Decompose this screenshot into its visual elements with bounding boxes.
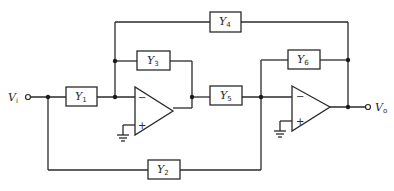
opamp-a1-minus: −: [138, 92, 146, 103]
output-terminal: Vo: [366, 101, 388, 115]
junction-a1-inverting: [113, 95, 117, 99]
admittance-y1: Y1: [66, 87, 97, 106]
admittance-y6: Y6: [288, 50, 320, 69]
input-label: Vi: [8, 91, 18, 105]
junction-y6-right: [346, 58, 350, 62]
opamp-a2: − +: [274, 86, 330, 137]
ground-icon: [274, 131, 286, 137]
admittance-y2: Y2: [148, 160, 180, 179]
ground-icon: [117, 135, 129, 141]
opamp-a1-plus: +: [138, 120, 146, 131]
junction-y3-left: [113, 59, 117, 63]
input-terminal: Vi: [8, 91, 31, 105]
circuit-diagram: Vi Vo Y1 Y2 Y3 Y4 Y5 Y6 − +: [0, 0, 394, 191]
admittance-y5: Y5: [210, 86, 242, 105]
junction-a2-inverting: [259, 95, 263, 99]
output-label: Vo: [375, 101, 387, 115]
junction-output: [346, 105, 350, 109]
admittance-y4: Y4: [210, 12, 241, 32]
junction-a1-output: [190, 95, 194, 99]
opamp-a1: − +: [117, 87, 173, 141]
junction-input: [46, 95, 50, 99]
admittance-y3: Y3: [137, 51, 170, 70]
opamp-a2-minus: −: [296, 91, 304, 102]
input-terminal-icon: [26, 95, 31, 100]
output-terminal-icon: [366, 105, 371, 110]
opamp-a2-plus: +: [296, 116, 304, 127]
